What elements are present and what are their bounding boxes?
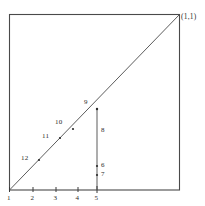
axis-tick-label-5: 5: [95, 195, 99, 202]
point-label-10: 10: [55, 119, 62, 126]
axis-tick-label-3: 3: [54, 195, 58, 202]
point-label-12: 12: [21, 155, 28, 162]
point-label-6: 6: [101, 162, 105, 169]
point-label-8: 8: [101, 127, 105, 134]
corner-label: (1,1): [181, 13, 196, 21]
point-marker-10: [72, 128, 74, 130]
point-marker-12: [38, 159, 40, 161]
point-label-11: 11: [42, 133, 49, 140]
axis-tick-label-2: 2: [31, 195, 35, 202]
point-marker-9: [96, 108, 98, 110]
point-label-7: 7: [101, 171, 105, 178]
point-label-9: 9: [84, 99, 88, 106]
point-marker-6: [96, 165, 98, 167]
axis-tick-label-1: 1: [7, 195, 11, 202]
point-marker-7: [96, 174, 98, 176]
diagonal-line: [10, 15, 180, 191]
point-marker-11: [59, 137, 61, 139]
geometry-figure: (1,1) 1 2 3 4 5 12 11 10 9 8 6 7: [0, 0, 205, 206]
axis-tick-label-4: 4: [76, 195, 80, 202]
